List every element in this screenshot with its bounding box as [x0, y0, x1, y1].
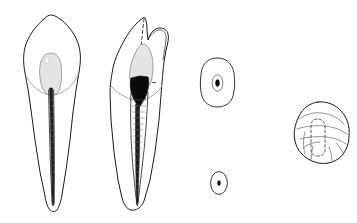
dental-anatomy-figure [0, 0, 357, 223]
illustration-canvas [0, 0, 357, 223]
panel-occlusal-view [294, 102, 349, 164]
panel-root-cross-section-cervical [200, 58, 234, 107]
pulp-horn-highlight-panel1 [44, 57, 49, 64]
canal-lumen-cervical-xsec [216, 80, 220, 87]
panel-root-cross-section-apical [211, 172, 228, 195]
crown-outline-occlusal [294, 102, 349, 164]
canal-lumen-apical-xsec [218, 180, 221, 185]
